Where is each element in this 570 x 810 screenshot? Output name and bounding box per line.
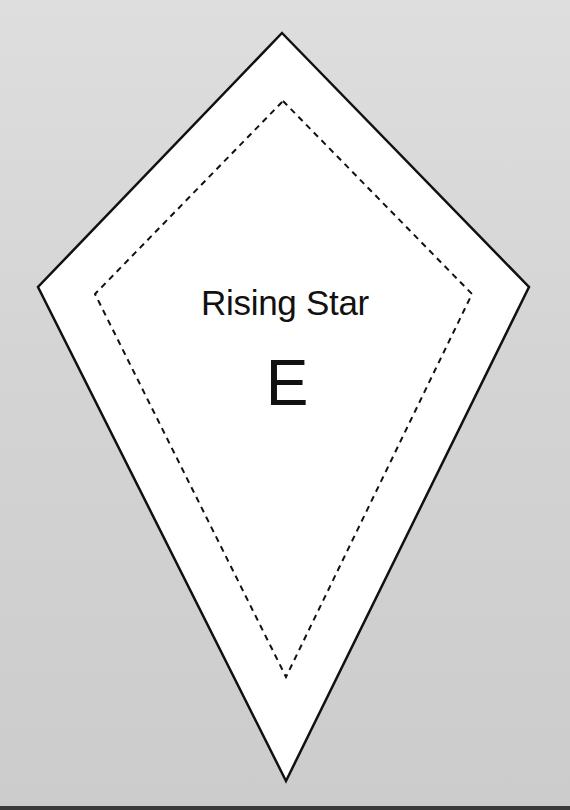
template-title: Rising Star [0, 283, 570, 323]
bottom-edge [0, 806, 570, 810]
piece-letter: E [0, 346, 570, 420]
